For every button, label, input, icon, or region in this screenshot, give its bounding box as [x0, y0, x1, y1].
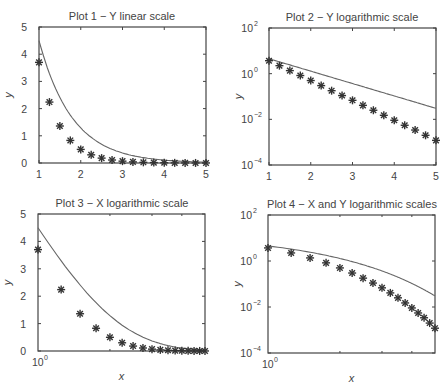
data-marker	[192, 159, 200, 167]
y-tick-label: 10	[241, 68, 253, 80]
x-tick-exponent: 0	[44, 354, 48, 361]
y-tick-label: 10	[240, 209, 252, 221]
subplot-1: Plot 1 − Y linear scale01234512345y	[2, 10, 210, 180]
y-axis-label: y	[231, 280, 243, 288]
data-marker	[432, 136, 440, 144]
axes-box	[268, 215, 435, 353]
x-tick-label: 3	[350, 170, 356, 182]
data-marker	[139, 344, 147, 352]
x-tick-label: 4	[161, 168, 167, 180]
y-tick-exponent: 2	[254, 20, 258, 27]
y-tick-label: 3	[21, 75, 27, 87]
data-marker	[386, 289, 394, 297]
y-axis-label: y	[1, 278, 13, 286]
data-marker	[411, 126, 419, 134]
x-tick-label: 3	[120, 168, 126, 180]
data-marker	[160, 159, 168, 167]
y-tick-label: 1	[20, 318, 26, 330]
data-marker	[57, 286, 65, 294]
data-marker	[349, 96, 357, 104]
data-marker	[378, 284, 386, 292]
data-marker	[45, 98, 53, 106]
data-marker	[164, 346, 172, 354]
data-marker	[98, 154, 106, 162]
y-tick-label: 5	[20, 208, 26, 220]
plot-title: Plot 3 − X logarithmic scale	[56, 197, 189, 209]
data-marker	[77, 145, 85, 153]
data-marker	[359, 274, 367, 282]
y-tick-label: 4	[21, 48, 27, 60]
y-tick-exponent: −4	[253, 345, 261, 352]
y-tick-label: 10	[241, 159, 253, 171]
y-tick-exponent: −2	[253, 299, 261, 306]
data-marker	[118, 339, 126, 347]
figure: Plot 1 − Y linear scale01234512345yPlot …	[0, 0, 447, 392]
data-marker	[414, 309, 422, 317]
data-marker	[139, 158, 147, 166]
subplot-4: Plot 4 − X and Y logarithmic scales10−41…	[231, 198, 439, 384]
data-marker	[129, 342, 137, 350]
subplot-2: Plot 2 − Y logarithmic scale10−410−21001…	[232, 11, 440, 182]
data-marker	[181, 159, 189, 167]
x-tick-label: 2	[308, 170, 314, 182]
y-tick-label: 1	[21, 130, 27, 142]
data-marker	[264, 244, 272, 252]
x-tick-label: 5	[433, 170, 439, 182]
plot-title: Plot 1 − Y linear scale	[69, 10, 175, 22]
x-tick-label: 5	[203, 168, 209, 180]
x-tick-label: 10	[32, 356, 44, 368]
data-marker	[338, 92, 346, 100]
data-marker	[401, 121, 409, 129]
data-marker	[296, 72, 304, 80]
data-marker	[336, 264, 344, 272]
data-marker	[119, 157, 127, 165]
x-tick-label: 4	[391, 170, 397, 182]
x-tick-label: 2	[78, 168, 84, 180]
data-marker	[307, 77, 315, 85]
y-axis-label: y	[2, 91, 14, 99]
y-tick-exponent: 0	[254, 66, 258, 73]
curve-line	[39, 41, 206, 163]
y-tick-label: 2	[21, 103, 27, 115]
x-tick-exponent: 0	[274, 356, 278, 363]
data-marker	[66, 136, 74, 144]
data-marker	[286, 67, 294, 75]
data-marker	[201, 347, 209, 355]
data-marker	[56, 122, 64, 130]
y-tick-exponent: 2	[253, 207, 257, 214]
data-marker	[87, 151, 95, 159]
y-tick-label: 10	[240, 347, 252, 359]
data-marker	[92, 324, 100, 332]
x-tick-label: 1	[36, 168, 42, 180]
data-marker	[322, 259, 330, 267]
data-marker	[287, 249, 295, 257]
x-axis-label: x	[348, 372, 355, 384]
data-marker	[394, 294, 402, 302]
y-tick-exponent: 0	[253, 253, 257, 260]
data-marker	[171, 159, 179, 167]
plot-title: Plot 4 − X and Y logarithmic scales	[267, 198, 437, 210]
data-marker	[369, 106, 377, 114]
x-tick-label: 1	[266, 170, 272, 182]
data-marker	[348, 269, 356, 277]
data-marker	[408, 304, 416, 312]
data-marker	[129, 158, 137, 166]
data-marker	[35, 58, 43, 66]
data-marker	[401, 299, 409, 307]
data-marker	[108, 156, 116, 164]
x-tick-label: 10	[262, 358, 274, 370]
data-marker	[328, 87, 336, 95]
plot-title: Plot 2 − Y logarithmic scale	[286, 11, 419, 23]
data-marker	[369, 279, 377, 287]
y-tick-label: 0	[21, 157, 27, 169]
data-marker	[317, 82, 325, 90]
data-marker	[275, 62, 283, 70]
x-axis-label: x	[118, 370, 125, 382]
y-tick-exponent: −4	[254, 157, 262, 164]
y-tick-label: 2	[20, 290, 26, 302]
y-tick-label: 3	[20, 263, 26, 275]
y-tick-exponent: −2	[254, 111, 262, 118]
y-tick-label: 4	[20, 235, 26, 247]
data-marker	[380, 111, 388, 119]
y-tick-label: 10	[240, 301, 252, 313]
